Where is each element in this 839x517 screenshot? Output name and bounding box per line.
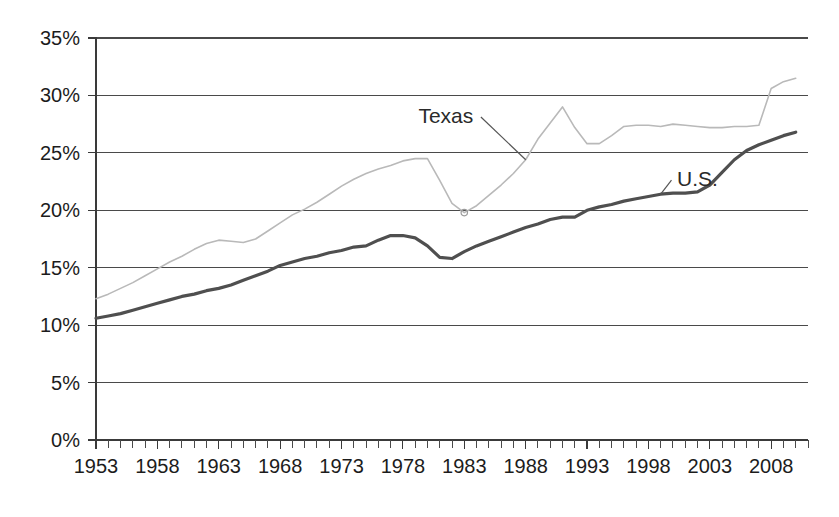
y-tick-label-10: 10% [40, 314, 80, 336]
x-tick-label-1993: 1993 [565, 455, 610, 477]
x-tick-label-1968: 1968 [258, 455, 303, 477]
x-tick-label-2008: 2008 [749, 455, 794, 477]
y-tick-label-0: 0% [51, 429, 80, 451]
x-tick-label-1983: 1983 [442, 455, 487, 477]
gridlines [96, 38, 808, 440]
line-chart: 0%5%10%15%20%25%30%35% 19531958196319681… [0, 0, 839, 517]
series-line-u-s [96, 132, 796, 318]
texas-label: Texas [418, 104, 473, 127]
x-tick-label-1998: 1998 [626, 455, 671, 477]
us-label: U.S. [677, 167, 718, 190]
axes [96, 38, 808, 440]
tick-marks [88, 38, 808, 449]
x-tick-label-1958: 1958 [135, 455, 180, 477]
y-tick-label-15: 15% [40, 257, 80, 279]
y-tick-label-30: 30% [40, 84, 80, 106]
chart-container: 0%5%10%15%20%25%30%35% 19531958196319681… [0, 0, 839, 517]
y-tick-label-35: 35% [40, 27, 80, 49]
x-tick-label-1973: 1973 [319, 455, 364, 477]
x-tick-label-1988: 1988 [503, 455, 548, 477]
x-tick-label-1978: 1978 [381, 455, 426, 477]
y-tick-label-20: 20% [40, 199, 80, 221]
x-axis-tick-labels: 1953195819631968197319781983198819931998… [74, 455, 794, 477]
y-tick-label-25: 25% [40, 142, 80, 164]
x-tick-label-1953: 1953 [74, 455, 119, 477]
y-axis-tick-labels: 0%5%10%15%20%25%30%35% [40, 27, 80, 451]
x-tick-label-1963: 1963 [197, 455, 242, 477]
y-tick-label-5: 5% [51, 372, 80, 394]
x-tick-label-2003: 2003 [688, 455, 733, 477]
